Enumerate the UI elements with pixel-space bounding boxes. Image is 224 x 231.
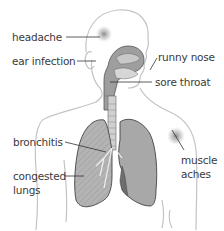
label-bronchitis: bronchitis: [13, 136, 63, 148]
label-ear-infection: ear infection: [12, 55, 76, 67]
right-lung: [75, 120, 112, 207]
label-sore-throat: sore throat: [155, 76, 210, 88]
label-runny-nose: runny nose: [158, 51, 215, 63]
flu-symptoms-diagram: headache ear infection runny nose sore t…: [0, 0, 224, 231]
label-congested: congested: [13, 170, 66, 182]
label-aches: aches: [181, 168, 211, 180]
label-muscle: muscle: [181, 154, 217, 166]
headache-spot: [95, 25, 113, 43]
label-lungs: lungs: [13, 184, 40, 196]
label-headache: headache: [12, 31, 62, 43]
